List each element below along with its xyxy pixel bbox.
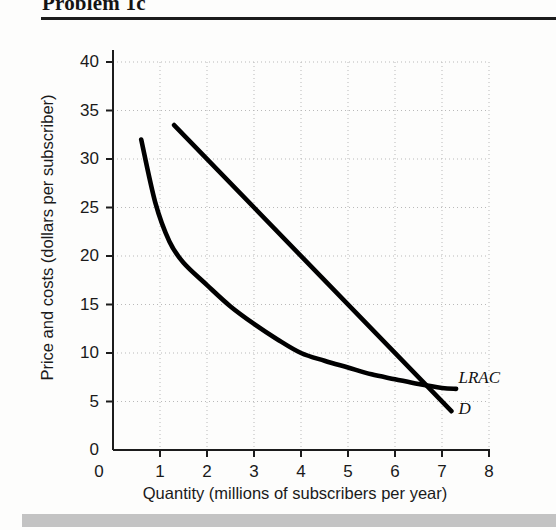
y-tick-label: 35 bbox=[51, 101, 99, 121]
y-tick-label: 5 bbox=[51, 392, 99, 412]
page-title: Problem 1c bbox=[42, 0, 146, 16]
tick-marks bbox=[106, 62, 489, 457]
y-tick-label: 10 bbox=[51, 343, 99, 363]
x-tick-label: 0 bbox=[94, 462, 103, 482]
curve-label-d: D bbox=[458, 399, 470, 419]
y-tick-label: 0 bbox=[51, 440, 99, 460]
title-divider bbox=[41, 17, 556, 20]
y-tick-label: 25 bbox=[51, 198, 99, 218]
x-tick-label: 8 bbox=[484, 462, 493, 482]
data-series bbox=[141, 125, 456, 411]
y-tick-label: 40 bbox=[51, 52, 99, 72]
x-tick-label: 7 bbox=[437, 462, 446, 482]
x-tick-label: 1 bbox=[155, 462, 164, 482]
y-tick-label: 20 bbox=[51, 246, 99, 266]
y-tick-label: 15 bbox=[51, 295, 99, 315]
bottom-band bbox=[22, 514, 556, 527]
y-tick-label: 30 bbox=[51, 149, 99, 169]
chart-figure: Price and costs (dollars per subscriber)… bbox=[0, 22, 556, 514]
curve-label-lrac: LRAC bbox=[458, 368, 500, 388]
figure-page: Problem 1c Price and costs (dollars per … bbox=[0, 0, 556, 530]
x-tick-label: 6 bbox=[390, 462, 399, 482]
x-tick-label: 3 bbox=[249, 462, 258, 482]
x-tick-label: 5 bbox=[343, 462, 352, 482]
x-tick-label: 4 bbox=[296, 462, 305, 482]
x-tick-label: 2 bbox=[202, 462, 211, 482]
